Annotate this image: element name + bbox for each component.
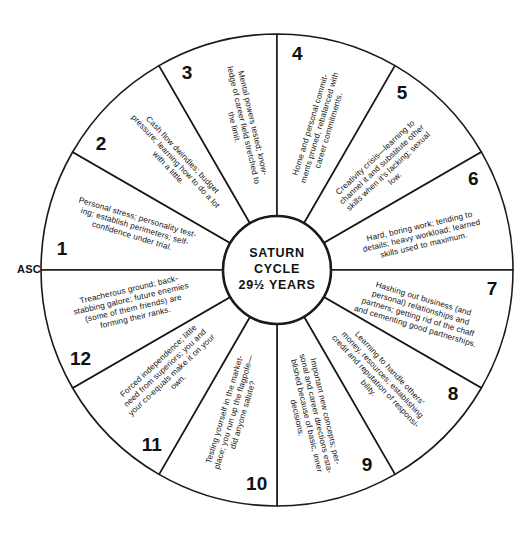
- sector-number-10: 10: [246, 473, 267, 494]
- sector-number-8: 8: [448, 383, 459, 404]
- wheel-graphic: 1Personal stress; personality test-ing; …: [0, 0, 527, 538]
- center-title-line: 29½ YEARS: [239, 278, 316, 292]
- sector-number-5: 5: [397, 82, 408, 103]
- sector-number-6: 6: [468, 168, 479, 189]
- sector-number-7: 7: [487, 278, 498, 299]
- sector-number-4: 4: [292, 43, 303, 64]
- asc-marker: ASC: [17, 263, 41, 275]
- sector-number-3: 3: [182, 62, 193, 83]
- sector-number-1: 1: [57, 238, 68, 259]
- sector-number-11: 11: [142, 434, 163, 455]
- center-title-line: SATURN: [249, 246, 304, 260]
- sector-number-9: 9: [362, 454, 373, 475]
- sector-number-2: 2: [96, 133, 107, 154]
- asc-label: ASC: [17, 263, 41, 275]
- saturn-cycle-wheel-diagram: 1Personal stress; personality test-ing; …: [0, 0, 527, 538]
- center-title-line: CYCLE: [254, 262, 300, 276]
- sector-number-12: 12: [70, 348, 91, 369]
